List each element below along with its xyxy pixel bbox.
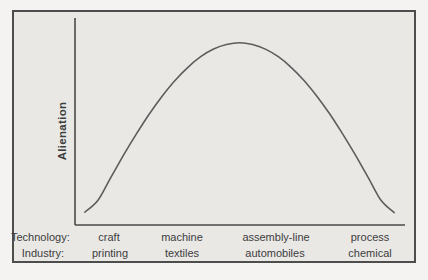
figure: Alienation Technology: craft machine ass… bbox=[0, 0, 428, 280]
x-axis-row-label-technology: Technology: bbox=[11, 231, 64, 244]
x-label-automobiles: automobiles bbox=[245, 247, 304, 260]
x-label-machine: machine bbox=[161, 231, 203, 244]
x-axis-row-label-industry: Industry: bbox=[11, 247, 64, 260]
x-label-process: process bbox=[351, 231, 390, 244]
x-label-craft: craft bbox=[98, 231, 119, 244]
x-label-printing: printing bbox=[92, 247, 128, 260]
x-label-chemical: chemical bbox=[348, 247, 391, 260]
alienation-curve bbox=[85, 43, 394, 213]
x-label-textiles: textiles bbox=[165, 247, 199, 260]
x-label-assembly-line: assembly-line bbox=[242, 231, 309, 244]
y-axis-label: Alienation bbox=[56, 71, 70, 191]
